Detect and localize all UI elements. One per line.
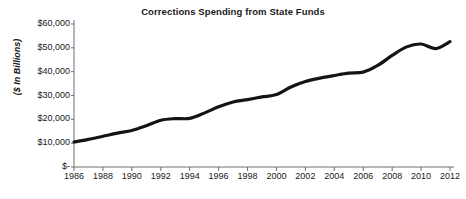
x-tick-label: 2002 <box>295 171 315 181</box>
x-tick-label: 2006 <box>353 171 373 181</box>
plot-area <box>0 0 466 199</box>
x-tick-label: 2000 <box>266 171 286 181</box>
chart-container: Corrections Spending from State Funds ($… <box>0 0 466 199</box>
data-line-corrections-spending <box>74 42 450 142</box>
x-tick-label: 1996 <box>209 171 229 181</box>
x-tick-label: 1998 <box>238 171 258 181</box>
x-tick-label: 1992 <box>151 171 171 181</box>
x-tick-label: 1986 <box>64 171 84 181</box>
x-tick-label: 2012 <box>440 171 460 181</box>
x-tick-label: 1988 <box>93 171 113 181</box>
x-tick-label: 1994 <box>180 171 200 181</box>
x-tick-label: 2004 <box>324 171 344 181</box>
footer-note <box>0 193 466 199</box>
x-tick-label: 1990 <box>122 171 142 181</box>
x-tick-label: 2008 <box>382 171 402 181</box>
x-tick-label: 2010 <box>411 171 431 181</box>
